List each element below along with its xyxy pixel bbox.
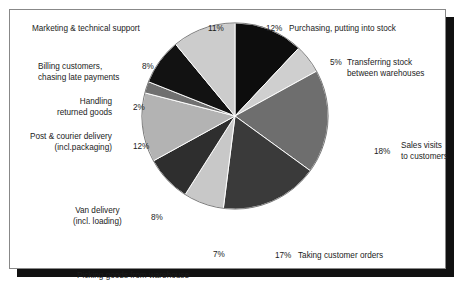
- slice-percent-billing: 8%: [142, 62, 154, 73]
- slice-label-marketing: Marketing & technical support: [32, 24, 140, 35]
- slice-label-marketing-line1: Marketing & technical support: [32, 24, 140, 35]
- slice-percent-van-delivery: 8%: [151, 213, 163, 224]
- slice-label-handling-returns-line2: returned goods: [57, 108, 112, 119]
- slice-label-billing-line1: Billing customers,: [38, 62, 119, 73]
- slice-label-handling-returns: Handling returned goods: [57, 97, 112, 118]
- slice-percent-post-courier: 12%: [133, 142, 149, 153]
- slice-label-van-delivery-line1: Van delivery: [73, 206, 122, 217]
- screenshot-root: Marketing & technical support 11% Purcha…: [0, 0, 465, 288]
- slice-label-van-delivery-line2: (incl. loading): [73, 217, 122, 228]
- slice-label-post-courier-line2: (incl.packaging): [30, 143, 112, 154]
- slice-label-van-delivery: Van delivery (incl. loading): [73, 206, 122, 227]
- slice-label-handling-returns-line1: Handling: [57, 97, 112, 108]
- slice-label-billing-line2: chasing late payments: [38, 73, 119, 84]
- slice-percent-taking-orders: 17%: [275, 251, 291, 262]
- pie-chart-svg: [140, 21, 330, 211]
- slice-label-sales-line2: to customers: [401, 152, 448, 163]
- slice-label-transferring: Transferring stock between warehouses: [347, 58, 424, 79]
- slice-percent-transferring: 5%: [330, 58, 342, 69]
- slice-percent-marketing: 11%: [208, 24, 224, 35]
- slice-percent-sales: 18%: [374, 147, 390, 158]
- chart-panel: Marketing & technical support 11% Purcha…: [9, 9, 446, 269]
- pie-chart-area: Marketing & technical support 11% Purcha…: [10, 10, 447, 270]
- slice-label-sales: Sales visits to customers: [401, 141, 448, 162]
- slice-label-billing: Billing customers, chasing late payments: [38, 62, 119, 83]
- slice-percent-purchasing: 12%: [266, 24, 282, 35]
- slice-label-picking: Picking goods from warehouse: [77, 271, 189, 282]
- slice-percent-handling-returns: 2%: [133, 103, 145, 114]
- slice-percent-picking: 7%: [213, 250, 225, 261]
- slice-label-purchasing-line1: Purchasing, putting into stock: [289, 24, 396, 35]
- slice-label-purchasing: Purchasing, putting into stock: [289, 24, 396, 35]
- slice-label-post-courier: Post & courier delivery (incl.packaging): [30, 132, 112, 153]
- slice-label-transferring-line2: between warehouses: [347, 69, 424, 80]
- slice-label-taking-orders: Taking customer orders: [298, 251, 383, 262]
- slice-label-taking-orders-line1: Taking customer orders: [298, 251, 383, 262]
- slice-label-picking-line1: Picking goods from warehouse: [77, 271, 189, 282]
- slice-label-transferring-line1: Transferring stock: [347, 58, 424, 69]
- slice-label-sales-line1: Sales visits: [401, 141, 448, 152]
- slice-label-post-courier-line1: Post & courier delivery: [30, 132, 112, 143]
